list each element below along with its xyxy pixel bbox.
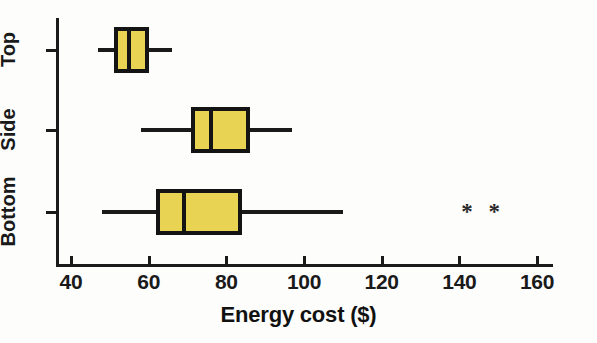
x-axis-tick-label: 80: [196, 270, 256, 294]
whisker-low-side: [141, 128, 191, 132]
x-axis-tick-label: 160: [507, 270, 567, 294]
box-side: [191, 107, 249, 153]
x-axis-tick-label: 120: [352, 270, 412, 294]
y-axis-tick: [46, 211, 57, 214]
x-axis-tick-label: 100: [274, 270, 334, 294]
x-axis-tick: [303, 256, 306, 266]
y-axis-tick: [46, 49, 57, 52]
x-axis-tick-label: 40: [41, 270, 101, 294]
x-axis-tick-label: 60: [119, 270, 179, 294]
median-bottom: [182, 189, 186, 235]
outlier-bottom: *: [484, 200, 504, 223]
x-axis-title: Energy cost ($): [0, 302, 597, 328]
whisker-high-top: [149, 48, 172, 52]
whisker-high-side: [250, 128, 293, 132]
y-axis-tick-label-bottom: Bottom: [0, 152, 20, 272]
y-axis-line: [56, 18, 59, 267]
box-plot-figure: 406080100120140160TopSideBottom** Energy…: [0, 0, 597, 343]
x-axis-tick: [70, 256, 73, 266]
median-top: [127, 27, 131, 73]
whisker-low-top: [98, 48, 114, 52]
x-axis-tick: [148, 256, 151, 266]
x-axis-tick: [536, 256, 539, 266]
x-axis-tick-label: 140: [429, 270, 489, 294]
whisker-low-bottom: [102, 210, 156, 214]
x-axis-tick: [381, 256, 384, 266]
y-axis-tick: [46, 129, 57, 132]
x-axis-tick: [458, 256, 461, 266]
whisker-high-bottom: [242, 210, 343, 214]
x-axis-tick: [225, 256, 228, 266]
median-side: [209, 107, 213, 153]
box-bottom: [156, 189, 241, 235]
outlier-bottom: *: [457, 200, 477, 223]
